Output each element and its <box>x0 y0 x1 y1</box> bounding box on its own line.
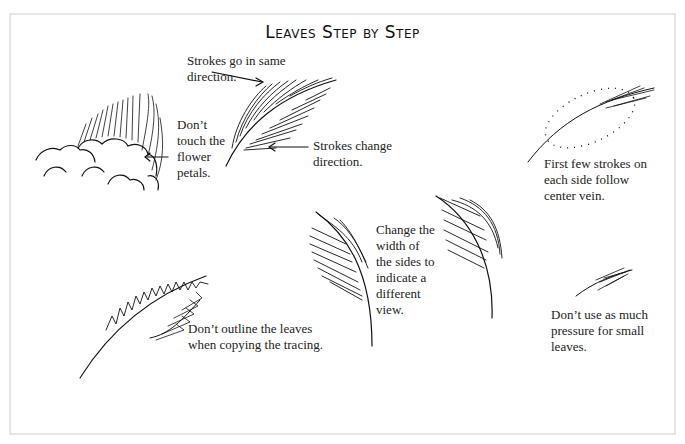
caption-same-direction: Strokes go in same direction. <box>187 53 286 85</box>
caption-small-leaves: Don’t use as much pressure for small lea… <box>551 307 648 355</box>
caption-dont-touch-petals: Don’t touch the flower petals. <box>177 117 225 181</box>
caption-follow-vein: First few strokes on each side follow ce… <box>544 156 647 204</box>
caption-change-direction: Strokes change direction. <box>313 138 392 170</box>
wide-view-leaf <box>436 196 502 318</box>
flower-petals-illustration <box>36 139 158 190</box>
caption-dont-outline: Don’t outline the leaves when copying th… <box>188 321 323 353</box>
dotted-leaf-illustration <box>528 76 654 162</box>
caption-change-width: Change the width of the sides to indicat… <box>376 222 435 318</box>
small-leaf <box>576 268 632 296</box>
illustrations <box>0 0 685 444</box>
